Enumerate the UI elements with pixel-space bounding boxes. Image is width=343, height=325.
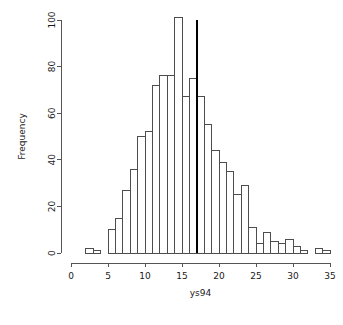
histogram-bars bbox=[86, 18, 330, 253]
x-axis-tick-label: 10 bbox=[139, 271, 151, 281]
x-axis-tick-label: 25 bbox=[250, 271, 261, 281]
histogram-bar bbox=[241, 185, 248, 253]
x-axis-tick-label: 15 bbox=[176, 271, 187, 281]
histogram-bar bbox=[256, 244, 263, 253]
x-axis-tick-label: 30 bbox=[287, 271, 299, 281]
histogram-bar bbox=[263, 232, 270, 253]
histogram-bar bbox=[286, 239, 293, 253]
histogram-bar bbox=[234, 195, 241, 253]
x-axis-tick-label: 0 bbox=[68, 271, 74, 281]
y-axis-tick-label: 40 bbox=[47, 154, 57, 166]
histogram-bar bbox=[160, 76, 167, 253]
histogram-bar bbox=[323, 251, 330, 253]
histogram-bar bbox=[300, 251, 307, 253]
y-axis-tick-label: 60 bbox=[47, 107, 57, 119]
histogram-bar bbox=[115, 218, 122, 253]
histogram-bar bbox=[293, 246, 300, 253]
y-axis-tick-label: 20 bbox=[47, 200, 57, 212]
histogram-bar bbox=[130, 169, 137, 253]
x-axis-tick-label: 20 bbox=[213, 271, 225, 281]
histogram-bar bbox=[271, 241, 278, 253]
histogram-bar bbox=[249, 227, 256, 253]
x-axis-title: ys94 bbox=[190, 288, 212, 298]
y-axis-tick-label: 0 bbox=[47, 250, 57, 256]
histogram-bar bbox=[175, 18, 182, 253]
histogram-bar bbox=[182, 97, 189, 253]
x-axis-tick-label: 5 bbox=[105, 271, 111, 281]
histogram-bar bbox=[108, 230, 115, 253]
histogram-bar bbox=[93, 251, 100, 253]
histogram-bar bbox=[152, 85, 159, 253]
x-axis-tick-label: 35 bbox=[324, 271, 335, 281]
histogram-plot-panel: 020406080100Frequency05101520253035ys94 bbox=[0, 0, 343, 325]
histogram-bar bbox=[219, 162, 226, 253]
y-axis-title: Frequency bbox=[17, 113, 27, 160]
histogram-bar bbox=[278, 244, 285, 253]
histogram-chart: 020406080100Frequency05101520253035ys94 bbox=[0, 0, 343, 325]
histogram-bar bbox=[315, 248, 322, 253]
histogram-bar bbox=[86, 248, 93, 253]
histogram-bar bbox=[226, 171, 233, 253]
histogram-bar bbox=[138, 137, 145, 254]
y-axis-tick-label: 80 bbox=[47, 61, 57, 73]
histogram-bar bbox=[123, 190, 130, 253]
histogram-bar bbox=[204, 125, 211, 253]
histogram-bar bbox=[167, 76, 174, 253]
histogram-bar bbox=[212, 150, 219, 253]
histogram-bar bbox=[145, 132, 152, 253]
y-axis-tick-label: 100 bbox=[47, 11, 57, 28]
